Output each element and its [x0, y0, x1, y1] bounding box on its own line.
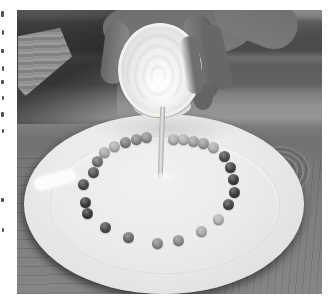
candy — [225, 162, 236, 173]
margin-text-fragment — [2, 30, 4, 35]
margin-text-fragment — [2, 129, 4, 133]
candy — [88, 167, 99, 178]
candy — [80, 197, 91, 208]
candy — [213, 214, 224, 225]
candy — [188, 136, 199, 147]
candy — [173, 235, 184, 246]
margin-text-fragment — [1, 11, 4, 17]
candy — [208, 142, 219, 153]
candy — [99, 147, 110, 158]
margin-text-fragment — [1, 112, 4, 117]
candy — [82, 208, 93, 219]
candy — [78, 179, 89, 190]
margin-text-fragment — [2, 96, 4, 100]
candy — [198, 138, 209, 149]
candy — [223, 199, 234, 210]
margin-text-fragment — [1, 198, 4, 202]
candy — [100, 222, 111, 233]
margin-text-fragment — [1, 49, 4, 53]
candy — [168, 134, 179, 145]
candy — [120, 137, 131, 148]
candy — [152, 238, 163, 249]
candy — [196, 226, 207, 237]
book-page — [0, 0, 332, 306]
candy — [178, 134, 189, 145]
candy-ring — [17, 10, 322, 294]
candy — [109, 141, 120, 152]
margin-text-fragment — [2, 228, 4, 232]
candy — [123, 232, 134, 243]
margin-text-fragment — [2, 66, 4, 71]
candy — [228, 174, 239, 185]
candy — [229, 187, 240, 198]
candy — [131, 134, 142, 145]
margin-text-fragment — [1, 80, 4, 84]
candy — [219, 151, 230, 162]
candy — [141, 132, 152, 143]
photo — [17, 10, 322, 294]
